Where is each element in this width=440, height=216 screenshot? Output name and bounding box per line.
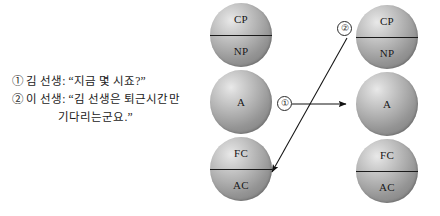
label-left-a: A (210, 70, 272, 134)
ego-state-stack-right: CP NP A FC AC (356, 5, 418, 203)
label-right-fc: FC (356, 139, 418, 171)
arrow-one-number-badge: ① (277, 96, 292, 111)
label-left-cp: CP (210, 3, 272, 35)
dialogue-line-1: ① 김 선생: “지금 몇 시죠?” (12, 72, 184, 90)
dialogue-line-2: ② 이 선생: “김 선생은 퇴근시간만 (12, 90, 184, 108)
sphere-right-adult: A (356, 72, 418, 136)
label-left-fc: FC (210, 137, 272, 169)
label-right-np: NP (356, 37, 418, 69)
label-right-ac: AC (356, 171, 418, 203)
label-left-ac: AC (210, 169, 272, 201)
diagram-canvas: ① 김 선생: “지금 몇 시죠?” ② 이 선생: “김 선생은 퇴근시간만 … (0, 0, 440, 216)
sphere-right-parent: CP NP (356, 5, 418, 69)
sphere-left-parent: CP NP (210, 3, 272, 67)
label-right-a: A (356, 72, 418, 136)
dialogue-line-3: 기다리는군요.” (12, 108, 184, 126)
dialogue-text-block: ① 김 선생: “지금 몇 시죠?” ② 이 선생: “김 선생은 퇴근시간만 … (12, 72, 184, 126)
sphere-right-child: FC AC (356, 139, 418, 203)
sphere-left-child: FC AC (210, 137, 272, 201)
arrow-two-number-badge: ② (337, 21, 352, 36)
ego-state-stack-left: CP NP A FC AC (210, 3, 272, 201)
label-right-cp: CP (356, 5, 418, 37)
sphere-left-adult: A (210, 70, 272, 134)
label-left-np: NP (210, 35, 272, 67)
